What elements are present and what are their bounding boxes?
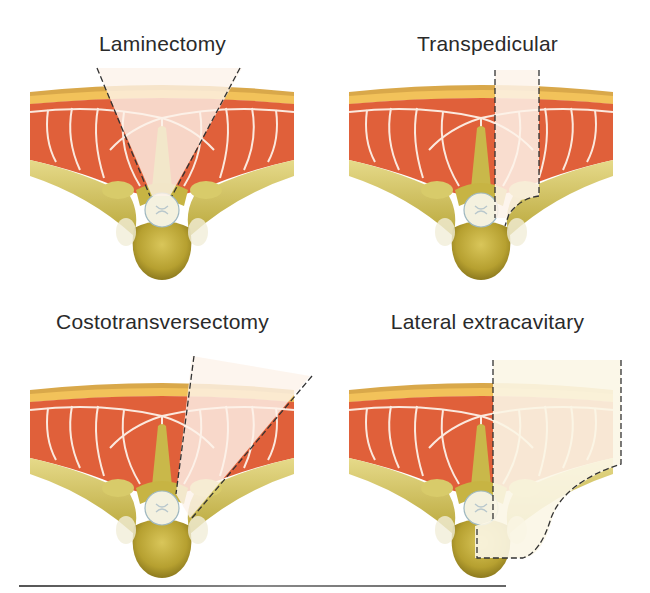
panel-transpedicular: Transpedicular: [325, 0, 650, 280]
anatomy-illustration: [0, 0, 325, 280]
anatomy-illustration: [325, 296, 650, 593]
anatomy-illustration: [0, 296, 325, 593]
panel-lateral-extracavitary: Lateral extracavitary: [325, 296, 650, 576]
bottom-divider: [19, 585, 506, 587]
anatomy-illustration: [325, 0, 650, 280]
panel-costotransversectomy: Costotransversectomy: [0, 296, 325, 576]
panel-laminectomy: Laminectomy: [0, 0, 325, 280]
